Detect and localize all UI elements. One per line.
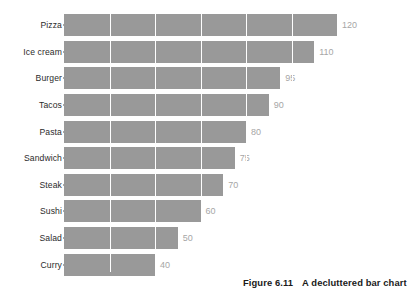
bar-steak[interactable] — [64, 174, 223, 196]
category-label-salad: Salad — [40, 233, 62, 243]
bar-salad[interactable] — [64, 227, 178, 249]
bar-row: Pizza120 — [0, 12, 419, 39]
bar-row: Ice cream110 — [0, 39, 419, 66]
category-label-pasta: Pasta — [40, 127, 62, 137]
category-label-sushi: Sushi — [40, 206, 62, 216]
category-label-sandwich: Sandwich — [24, 153, 62, 163]
figure-caption: Figure 6.11A decluttered bar chart — [243, 277, 407, 288]
bar-row: Curry40 — [0, 251, 419, 278]
value-label-curry: 40 — [160, 260, 170, 270]
bar-row: Salad50 — [0, 225, 419, 252]
value-label-tacos: 90 — [274, 100, 284, 110]
bar-row: Steak70 — [0, 172, 419, 199]
bar-curry[interactable] — [64, 254, 155, 276]
value-label-steak: 70 — [228, 180, 238, 190]
bar-row: Burger95 — [0, 65, 419, 92]
category-label-burger: Burger — [36, 73, 62, 83]
value-label-salad: 50 — [183, 233, 193, 243]
bar-pizza[interactable] — [64, 14, 337, 36]
bar-row: Sushi60 — [0, 198, 419, 225]
category-label-tacos: Tacos — [39, 100, 62, 110]
value-label-sushi: 60 — [206, 206, 216, 216]
bar-sushi[interactable] — [64, 200, 201, 222]
caption-text: A decluttered bar chart — [302, 277, 407, 288]
category-label-steak: Steak — [40, 180, 62, 190]
category-label-ice-cream: Ice cream — [23, 47, 62, 57]
value-label-sandwich: 75 — [240, 153, 250, 163]
value-label-burger: 95 — [285, 73, 295, 83]
bar-ice-cream[interactable] — [64, 41, 314, 63]
category-label-curry: Curry — [40, 260, 62, 270]
bar-row: Pasta80 — [0, 118, 419, 145]
figure-container: Pizza120Ice cream110Burger95Tacos90Pasta… — [0, 0, 419, 305]
bar-row: Sandwich75 — [0, 145, 419, 172]
bar-row: Tacos90 — [0, 92, 419, 119]
bar-sandwich[interactable] — [64, 147, 235, 169]
category-label-pizza: Pizza — [40, 20, 62, 30]
value-label-pasta: 80 — [251, 127, 261, 137]
bar-burger[interactable] — [64, 67, 280, 89]
value-label-ice-cream: 110 — [319, 47, 333, 57]
caption-figure-number: Figure 6.11 — [243, 277, 293, 288]
value-label-pizza: 120 — [342, 20, 357, 30]
bar-pasta[interactable] — [64, 121, 246, 143]
bar-tacos[interactable] — [64, 94, 269, 116]
bar-chart-plot: Pizza120Ice cream110Burger95Tacos90Pasta… — [0, 0, 419, 278]
